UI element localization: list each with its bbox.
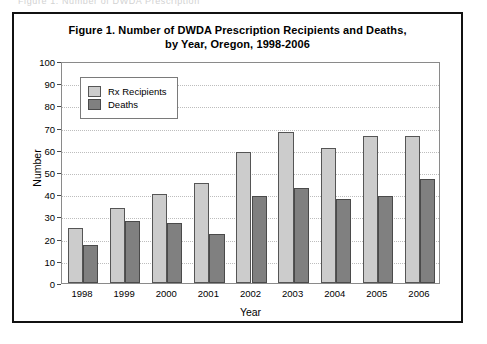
x-tick-label-2005: 2005 bbox=[366, 288, 387, 299]
scan-artifact-text: Figure 1. Number of DWDA Prescription bbox=[18, 0, 278, 6]
y-tick-label-70: 70 bbox=[29, 123, 55, 134]
plot-area: Rx Recipients Deaths bbox=[61, 62, 440, 284]
y-tick-label-90: 90 bbox=[29, 79, 55, 90]
y-tick-label-100: 100 bbox=[29, 57, 55, 68]
bar-rx-recipients-1998 bbox=[68, 228, 83, 284]
plot-wrapper: Rx Recipients Deaths bbox=[61, 62, 440, 284]
y-tick-label-80: 80 bbox=[29, 101, 55, 112]
bar-deaths-2005 bbox=[378, 196, 393, 283]
bar-rx-recipients-2000 bbox=[152, 194, 167, 283]
y-tick-label-40: 40 bbox=[29, 190, 55, 201]
bar-rx-recipients-2003 bbox=[278, 132, 293, 283]
x-tick-label-1999: 1999 bbox=[114, 288, 135, 299]
legend-swatch-rx-recipients bbox=[88, 86, 101, 97]
legend-label-deaths: Deaths bbox=[108, 99, 138, 110]
y-tick-label-0: 0 bbox=[29, 279, 55, 290]
legend-label-rx-recipients: Rx Recipients bbox=[108, 86, 167, 97]
y-tick-label-20: 20 bbox=[29, 234, 55, 245]
gridline-70 bbox=[62, 130, 439, 131]
bar-rx-recipients-2005 bbox=[363, 136, 378, 283]
x-tick-label-2004: 2004 bbox=[324, 288, 345, 299]
figure-title-line-1: Figure 1. Number of DWDA Prescription Re… bbox=[68, 24, 406, 36]
figure-title: Figure 1. Number of DWDA Prescription Re… bbox=[14, 23, 461, 51]
bar-deaths-2004 bbox=[336, 199, 351, 283]
legend-item-rx-recipients: Rx Recipients bbox=[88, 86, 167, 97]
figure-title-line-2: by Year, Oregon, 1998-2006 bbox=[14, 37, 461, 51]
bar-deaths-2006 bbox=[420, 179, 435, 283]
chart-legend: Rx Recipients Deaths bbox=[80, 77, 178, 119]
legend-item-deaths: Deaths bbox=[88, 99, 167, 110]
y-tick-label-50: 50 bbox=[29, 168, 55, 179]
legend-swatch-deaths bbox=[88, 99, 101, 110]
x-tick-label-2003: 2003 bbox=[282, 288, 303, 299]
x-tick-label-2001: 2001 bbox=[198, 288, 219, 299]
figure-screenshot: Figure 1. Number of DWDA Prescription Fi… bbox=[0, 0, 487, 344]
bar-deaths-2002 bbox=[252, 196, 267, 283]
x-tick-label-2002: 2002 bbox=[240, 288, 261, 299]
y-tick-label-10: 10 bbox=[29, 256, 55, 267]
bar-deaths-1999 bbox=[125, 221, 140, 283]
bar-rx-recipients-1999 bbox=[110, 208, 125, 283]
bar-rx-recipients-2006 bbox=[405, 136, 420, 283]
bar-deaths-1998 bbox=[83, 245, 98, 283]
y-tick-mark-0 bbox=[57, 284, 61, 285]
bar-rx-recipients-2002 bbox=[236, 152, 251, 283]
bar-deaths-2000 bbox=[167, 223, 182, 283]
x-axis-label: Year bbox=[61, 306, 440, 318]
y-tick-label-30: 30 bbox=[29, 212, 55, 223]
x-tick-label-1998: 1998 bbox=[71, 288, 92, 299]
bar-deaths-2001 bbox=[209, 234, 224, 283]
bar-rx-recipients-2001 bbox=[194, 183, 209, 283]
bar-deaths-2003 bbox=[294, 188, 309, 283]
y-tick-label-60: 60 bbox=[29, 145, 55, 156]
x-tick-label-2006: 2006 bbox=[408, 288, 429, 299]
figure-border-box: Figure 1. Number of DWDA Prescription Re… bbox=[12, 12, 463, 323]
bar-rx-recipients-2004 bbox=[321, 148, 336, 283]
x-tick-label-2000: 2000 bbox=[156, 288, 177, 299]
